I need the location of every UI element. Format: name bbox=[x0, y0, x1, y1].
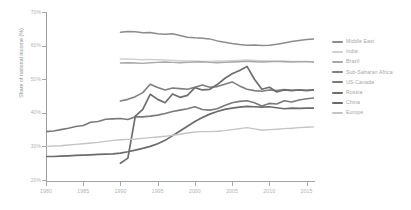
legend-label: Russia bbox=[346, 89, 362, 95]
plot-area bbox=[46, 12, 314, 180]
x-axis-tick-label: 1990 bbox=[105, 188, 135, 194]
series-line bbox=[46, 98, 314, 132]
legend-label: Middle East bbox=[346, 38, 374, 44]
x-axis-tick-label: 2015 bbox=[292, 188, 322, 194]
series-line bbox=[46, 106, 314, 156]
legend-swatch bbox=[332, 81, 343, 83]
x-axis-tick bbox=[83, 182, 84, 186]
legend-item[interactable]: Sub-Saharan Africa bbox=[332, 69, 411, 76]
legend-swatch bbox=[332, 71, 343, 73]
legend-swatch bbox=[332, 92, 343, 94]
y-axis-tick-label: 60% bbox=[1, 42, 41, 48]
legend-swatch bbox=[332, 61, 343, 63]
legend-label: China bbox=[346, 99, 360, 105]
series-line bbox=[120, 66, 314, 163]
x-axis-tick bbox=[195, 182, 196, 186]
x-axis-tick-label: 2010 bbox=[254, 188, 284, 194]
x-axis-tick-label: 1980 bbox=[31, 188, 61, 194]
legend-label: Brazil bbox=[346, 58, 360, 64]
x-axis-tick bbox=[307, 182, 308, 186]
series-layer bbox=[46, 12, 314, 180]
y-axis-tick-label: 20% bbox=[1, 177, 41, 183]
legend-item[interactable]: Russia bbox=[332, 89, 411, 96]
legend-item[interactable]: Brazil bbox=[332, 58, 411, 65]
legend-swatch bbox=[332, 51, 343, 53]
y-axis-tick-label: 40% bbox=[1, 109, 41, 115]
x-axis-tick bbox=[269, 182, 270, 186]
x-axis-tick-label: 2005 bbox=[217, 188, 247, 194]
legend-label: Sub-Saharan Africa bbox=[346, 69, 393, 75]
x-axis-tick bbox=[46, 182, 47, 186]
y-axis-tick-label: 30% bbox=[1, 143, 41, 149]
x-axis-line bbox=[46, 181, 315, 182]
legend-item[interactable]: India bbox=[332, 48, 411, 55]
y-axis-tick-label: 50% bbox=[1, 76, 41, 82]
legend-item[interactable]: Middle East bbox=[332, 38, 411, 45]
legend-label: US-Canada bbox=[346, 79, 374, 85]
legend-swatch bbox=[332, 102, 343, 104]
x-axis-tick bbox=[158, 182, 159, 186]
legend-swatch bbox=[332, 112, 343, 114]
y-axis-title: Share of national income (%) bbox=[18, 3, 24, 123]
legend-item[interactable]: US-Canada bbox=[332, 79, 411, 86]
x-axis-tick-label: 1985 bbox=[68, 188, 98, 194]
y-axis-tick-label: 70% bbox=[1, 9, 41, 15]
x-axis-tick-label: 1995 bbox=[143, 188, 173, 194]
x-axis-tick-label: 2000 bbox=[180, 188, 210, 194]
line-chart: Share of national income (%) 70%60%50%40… bbox=[0, 0, 411, 210]
legend-label: Europe bbox=[346, 109, 363, 115]
x-axis-tick bbox=[232, 182, 233, 186]
legend-label: India bbox=[346, 48, 358, 54]
series-line bbox=[120, 31, 314, 45]
x-axis-tick bbox=[120, 182, 121, 186]
legend-item[interactable]: Europe bbox=[332, 109, 411, 116]
series-line bbox=[46, 127, 314, 146]
legend-swatch bbox=[332, 41, 343, 43]
legend-item[interactable]: China bbox=[332, 99, 411, 106]
legend: Middle EastIndiaBrazilSub-Saharan Africa… bbox=[332, 38, 411, 120]
